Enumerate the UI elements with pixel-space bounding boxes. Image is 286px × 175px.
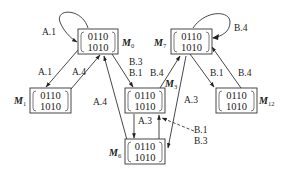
node-m0: 0110 1010 M0 bbox=[78, 29, 134, 54]
edge-external-to-m3 bbox=[162, 118, 194, 131]
m0-row2: 1010 bbox=[88, 42, 109, 53]
m7-self-loop-arrowhead bbox=[212, 34, 219, 40]
node-m12: 0110 1010 M12 bbox=[216, 88, 274, 113]
node-m7: 0110 1010 M7 bbox=[153, 29, 212, 54]
node-m3: 0110 1010 M3 bbox=[125, 78, 177, 113]
label-m0-self: A.1 bbox=[42, 27, 56, 37]
m12-row1: 0110 bbox=[226, 90, 247, 101]
m0-name: M0 bbox=[121, 37, 134, 49]
m12-name: M12 bbox=[258, 95, 274, 107]
m1-row2: 1010 bbox=[40, 101, 61, 112]
m3-row2: 1010 bbox=[135, 101, 156, 112]
m1-row1: 0110 bbox=[40, 90, 61, 101]
m3-row1: 0110 bbox=[135, 90, 156, 101]
label-m3-m6: A.3 bbox=[138, 116, 152, 126]
m3-name: M3 bbox=[164, 78, 177, 90]
m7-row2: 1010 bbox=[181, 42, 202, 53]
label-external-a: B.1 bbox=[194, 125, 208, 135]
m7-row1: 0110 bbox=[181, 31, 202, 42]
node-m1: 0110 1010 M1 bbox=[13, 88, 71, 113]
label-m0-m3-a: B.3 bbox=[129, 57, 143, 67]
label-m1-m0: A.4 bbox=[72, 67, 86, 77]
m6-row1: 0110 bbox=[135, 141, 156, 152]
label-m0-m3-b: B.1 bbox=[129, 68, 143, 78]
label-m7-self: B.4 bbox=[234, 23, 248, 33]
m1-name: M1 bbox=[13, 95, 26, 107]
label-m3-m7: B.4 bbox=[150, 68, 164, 78]
label-m0-m1: A.1 bbox=[38, 67, 52, 77]
m6-name: M6 bbox=[108, 147, 122, 159]
node-m6: 0110 1010 M6 bbox=[108, 139, 165, 164]
state-transition-diagram: A.1 A.1 A.4 B.3 B.1 A.4 B.4 B.4 B.1 B.4 … bbox=[0, 0, 286, 175]
label-m7-m12: B.1 bbox=[210, 68, 224, 78]
label-m7-m6: A.3 bbox=[184, 95, 198, 105]
m6-row2: 1010 bbox=[135, 152, 156, 163]
edge-m6-to-m0 bbox=[104, 56, 127, 140]
label-external-b: B.3 bbox=[194, 136, 208, 146]
m7-name: M7 bbox=[153, 37, 167, 49]
m12-row2: 1010 bbox=[226, 101, 247, 112]
label-m12-m7: B.4 bbox=[238, 68, 252, 78]
label-m6-m0: A.4 bbox=[93, 97, 107, 107]
m0-row1: 0110 bbox=[88, 31, 109, 42]
